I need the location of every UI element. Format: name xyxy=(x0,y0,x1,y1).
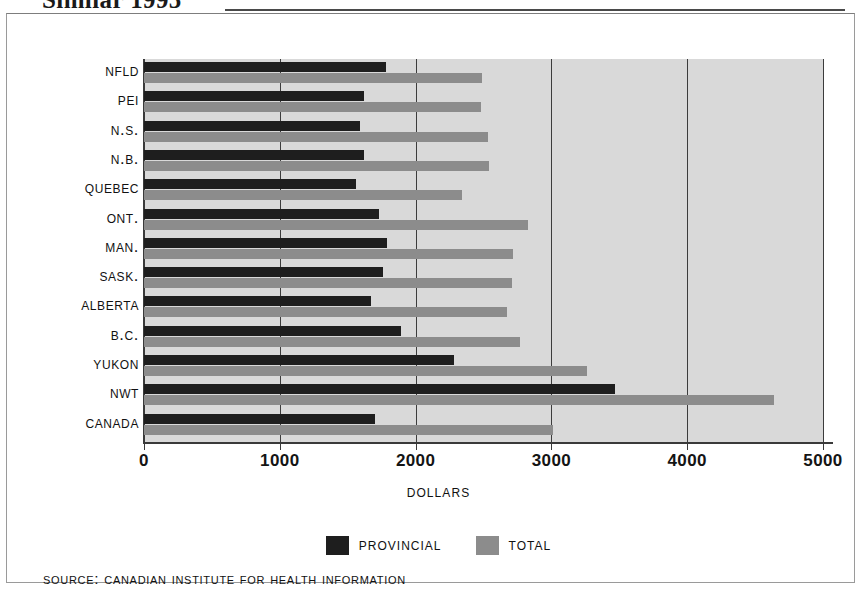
bar-row: Yukon xyxy=(7,355,863,384)
bar-row: N.S. xyxy=(7,121,863,150)
bar-provincial xyxy=(144,121,360,131)
bar-total xyxy=(144,307,507,317)
tick-mark-3000 xyxy=(551,444,552,450)
category-label: Ont. xyxy=(107,208,139,227)
bar-row: Canada xyxy=(7,414,863,443)
x-tick-label: 1000 xyxy=(260,451,299,471)
category-label: PEI xyxy=(118,90,139,109)
category-label: Man. xyxy=(105,237,139,256)
category-label: Canada xyxy=(85,413,139,432)
bar-provincial xyxy=(144,326,401,336)
bar-total xyxy=(144,395,774,405)
bar-total xyxy=(144,73,482,83)
bar-total xyxy=(144,220,528,230)
tick-mark-0 xyxy=(144,444,145,450)
x-tick-label: 0 xyxy=(139,451,149,471)
source-note: Source: Canadian Institute for Health In… xyxy=(43,570,406,588)
chart-figure-frame: 010002000300040005000 NfldPEIN.S.N.B.Que… xyxy=(6,13,855,583)
legend-label: Total xyxy=(509,535,552,555)
category-label: N.S. xyxy=(111,120,139,139)
bar-row: Man. xyxy=(7,238,863,267)
bar-total xyxy=(144,132,488,142)
category-label: NWT xyxy=(110,383,139,402)
bar-row: NWT xyxy=(7,384,863,413)
bar-provincial xyxy=(144,384,615,394)
bar-provincial xyxy=(144,238,387,248)
bar-total xyxy=(144,161,489,171)
bar-provincial xyxy=(144,267,383,277)
headline-strip: Similar 1995 xyxy=(0,0,863,14)
bar-row: Ont. xyxy=(7,209,863,238)
bar-total xyxy=(144,366,587,376)
bar-total xyxy=(144,278,512,288)
category-label: Quebec xyxy=(85,178,139,197)
category-label: B.C. xyxy=(111,325,139,344)
headline-title: Similar 1995 xyxy=(42,0,182,14)
tick-mark-2000 xyxy=(416,444,417,450)
bar-provincial xyxy=(144,296,371,306)
bar-provincial xyxy=(144,62,386,72)
bar-row: Nfld xyxy=(7,62,863,91)
legend-swatch xyxy=(476,536,499,555)
legend-swatch xyxy=(326,536,349,555)
category-label: Yukon xyxy=(93,354,139,373)
bar-provincial xyxy=(144,209,379,219)
bar-total xyxy=(144,249,513,259)
legend-label: Provincial xyxy=(359,535,442,555)
bar-provincial xyxy=(144,355,454,365)
x-tick-label: 5000 xyxy=(803,451,842,471)
bar-total xyxy=(144,102,481,112)
category-label: Alberta xyxy=(81,295,139,314)
bar-row: N.B. xyxy=(7,150,863,179)
bar-total xyxy=(144,190,462,200)
tick-mark-1000 xyxy=(280,444,281,450)
category-label: N.B. xyxy=(111,149,139,168)
bar-total xyxy=(144,425,553,435)
bar-provincial xyxy=(144,150,364,160)
x-tick-label: 3000 xyxy=(532,451,571,471)
bar-provincial xyxy=(144,179,356,189)
tick-mark-4000 xyxy=(687,444,688,450)
x-axis-title: Dollars xyxy=(7,482,863,502)
tick-mark-5000 xyxy=(823,444,824,450)
chart-legend: ProvincialTotal xyxy=(7,535,863,555)
bar-provincial xyxy=(144,91,364,101)
category-label: Nfld xyxy=(105,61,139,80)
bar-row: Quebec xyxy=(7,179,863,208)
legend-entry: Provincial xyxy=(326,535,442,555)
legend-entry: Total xyxy=(476,535,552,555)
bar-total xyxy=(144,337,520,347)
category-label: Sask. xyxy=(99,266,139,285)
x-tick-label: 4000 xyxy=(667,451,706,471)
bar-row: Alberta xyxy=(7,296,863,325)
bar-row: B.C. xyxy=(7,326,863,355)
headline-divider xyxy=(225,9,845,11)
bar-provincial xyxy=(144,414,375,424)
x-tick-label: 2000 xyxy=(396,451,435,471)
bar-row: Sask. xyxy=(7,267,863,296)
bar-row: PEI xyxy=(7,91,863,120)
